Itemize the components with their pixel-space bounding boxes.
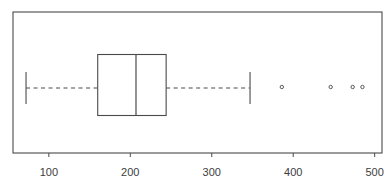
iqr-box <box>98 55 166 116</box>
outlier-point <box>361 85 364 88</box>
outlier-point <box>351 85 354 88</box>
outlier-point <box>329 85 332 88</box>
x-axis-tick-label: 400 <box>284 166 302 178</box>
x-axis-tick-label: 500 <box>365 166 383 178</box>
boxplot-figure: 100200300400500 <box>0 0 391 195</box>
x-axis-tick-label: 300 <box>203 166 221 178</box>
plot-frame <box>13 12 382 153</box>
boxplot-canvas: 100200300400500 <box>0 0 391 195</box>
outlier-point <box>280 85 283 88</box>
x-axis-tick-label: 200 <box>121 166 139 178</box>
x-axis-tick-label: 100 <box>40 166 58 178</box>
